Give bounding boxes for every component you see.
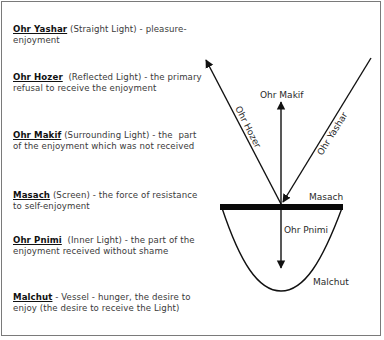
label-ohr-makif: Ohr Makif	[260, 90, 304, 100]
masach-screen	[220, 204, 343, 210]
light-diagram: Ohr Makif Ohr Hozer Ohr Yashar Masach Oh…	[0, 0, 384, 340]
ohr-hozer-arrow	[206, 60, 281, 204]
label-ohr-yashar: Ohr Yashar	[315, 110, 349, 157]
ohr-yashar-arrow	[283, 58, 371, 202]
label-masach: Masach	[309, 192, 343, 202]
label-malchut: Malchut	[313, 277, 349, 287]
label-ohr-hozer: Ohr Hozer	[233, 104, 263, 149]
label-ohr-pnimi: Ohr Pnimi	[284, 225, 328, 235]
